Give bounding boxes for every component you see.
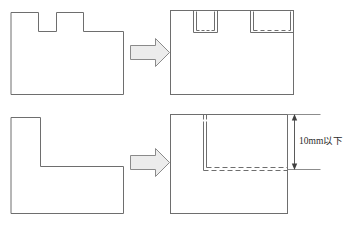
bottom-left-l-shape xyxy=(12,118,124,214)
transform-arrow-top-shape xyxy=(131,39,170,67)
top-right-plate-outline xyxy=(171,11,294,95)
bottom-left-plate-outline xyxy=(12,118,124,214)
top-left-plate-outline xyxy=(12,13,124,95)
transform-arrow-bottom-shape xyxy=(131,149,170,177)
transform-arrow-top xyxy=(131,39,170,67)
bottom-right-filled-plate xyxy=(171,115,288,214)
top-right-filled-plate xyxy=(171,11,294,95)
top-left-notched-plate xyxy=(12,13,124,95)
bottom-right-plate-outline xyxy=(171,115,288,214)
diagram-root: 10mm以下 xyxy=(0,0,343,226)
diagram-canvas xyxy=(0,0,343,226)
dimension-label: 10mm以下 xyxy=(299,137,343,147)
transform-arrow-bottom xyxy=(131,149,170,177)
